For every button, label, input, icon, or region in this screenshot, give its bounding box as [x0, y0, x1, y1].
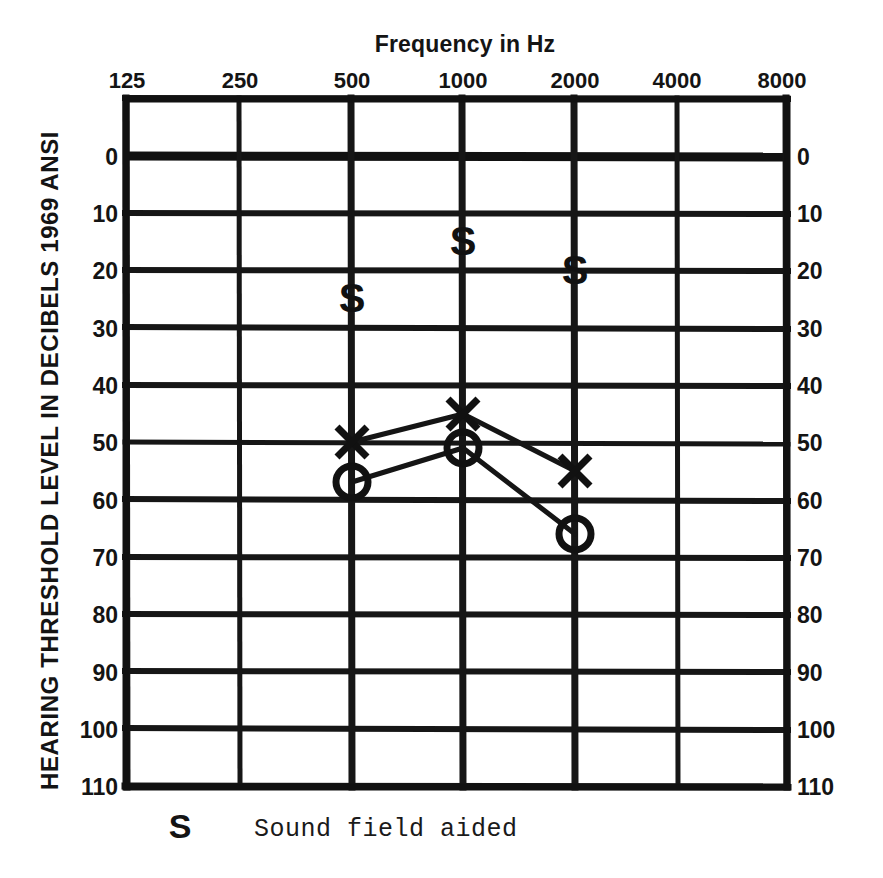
y-tick-left-60: 60	[92, 488, 118, 514]
y-tick-left-40: 40	[92, 373, 118, 399]
marker-s-500hz: S	[339, 276, 366, 320]
y-tick-right-60: 60	[797, 488, 823, 514]
x-axis-tick-labels: 125 250 500 1000 2000 4000 8000	[109, 68, 807, 93]
y-tick-left-100: 100	[80, 717, 118, 743]
gridline-20	[125, 270, 788, 271]
gridline-0	[125, 156, 788, 157]
gridline-100	[125, 728, 788, 730]
line-x-500-1000	[352, 414, 463, 442]
y-tick-right-40: 40	[797, 373, 823, 399]
gridline-60	[125, 499, 788, 501]
legend-symbol-s: S	[169, 807, 192, 845]
gridline-70	[125, 557, 788, 558]
legend-label-sound-field-aided: Sound field aided	[254, 815, 518, 844]
y-tick-left-0: 0	[105, 144, 118, 170]
x-tick-4000: 4000	[653, 68, 702, 93]
y-axis-title: HEARING THRESHOLD LEVEL IN DECIBELS 1969…	[36, 131, 63, 790]
audiogram-page: Frequency in Hz 125 250 500 1000 2000 40…	[0, 0, 883, 878]
y-axis-tick-labels-left: 0 10 20 30 40 50 60 70 80 90 100 110	[80, 144, 118, 800]
y-tick-right-90: 90	[797, 660, 823, 686]
gridline-90	[125, 671, 788, 672]
y-tick-right-10: 10	[797, 201, 823, 227]
y-tick-left-110: 110	[81, 774, 118, 800]
y-tick-left-90: 90	[92, 660, 118, 686]
y-tick-left-10: 10	[92, 201, 118, 227]
gridline-2000hz	[574, 98, 575, 787]
y-tick-left-80: 80	[92, 602, 118, 628]
gridline-50	[125, 442, 788, 444]
gridline-30	[125, 327, 788, 329]
x-tick-125: 125	[109, 68, 146, 93]
x-tick-1000: 1000	[439, 68, 488, 93]
grid-horizontal-lines	[125, 98, 788, 787]
y-tick-right-100: 100	[797, 717, 835, 743]
y-tick-right-20: 20	[797, 258, 823, 284]
y-tick-right-70: 70	[797, 545, 823, 571]
x-tick-2000: 2000	[551, 68, 600, 93]
y-tick-right-50: 50	[797, 430, 823, 456]
y-tick-left-50: 50	[92, 430, 118, 456]
gridline-80	[125, 614, 788, 615]
x-tick-250: 250	[222, 68, 259, 93]
y-tick-left-20: 20	[92, 258, 118, 284]
marker-s-2000hz: S	[562, 248, 589, 292]
y-tick-right-0: 0	[797, 144, 810, 170]
y-tick-right-30: 30	[797, 316, 823, 342]
gridline-40	[125, 385, 788, 386]
y-tick-right-110: 110	[797, 774, 834, 800]
gridline-4000hz	[677, 98, 678, 787]
y-tick-left-30: 30	[92, 316, 118, 342]
chart-title: Frequency in Hz	[375, 31, 556, 57]
x-tick-500: 500	[334, 68, 371, 93]
gridline-250hz	[239, 98, 240, 787]
gridline-1000hz	[462, 98, 463, 787]
legend: S Sound field aided	[169, 807, 518, 845]
y-tick-right-80: 80	[797, 602, 823, 628]
y-tick-left-70: 70	[92, 545, 118, 571]
y-axis-tick-labels-right: 0 10 20 30 40 50 60 70 80 90 100 110	[797, 144, 835, 800]
gridline-10	[125, 213, 788, 214]
audiogram-chart: Frequency in Hz 125 250 500 1000 2000 40…	[0, 0, 883, 878]
x-tick-8000: 8000	[758, 68, 807, 93]
marker-s-1000hz: S	[450, 219, 477, 263]
